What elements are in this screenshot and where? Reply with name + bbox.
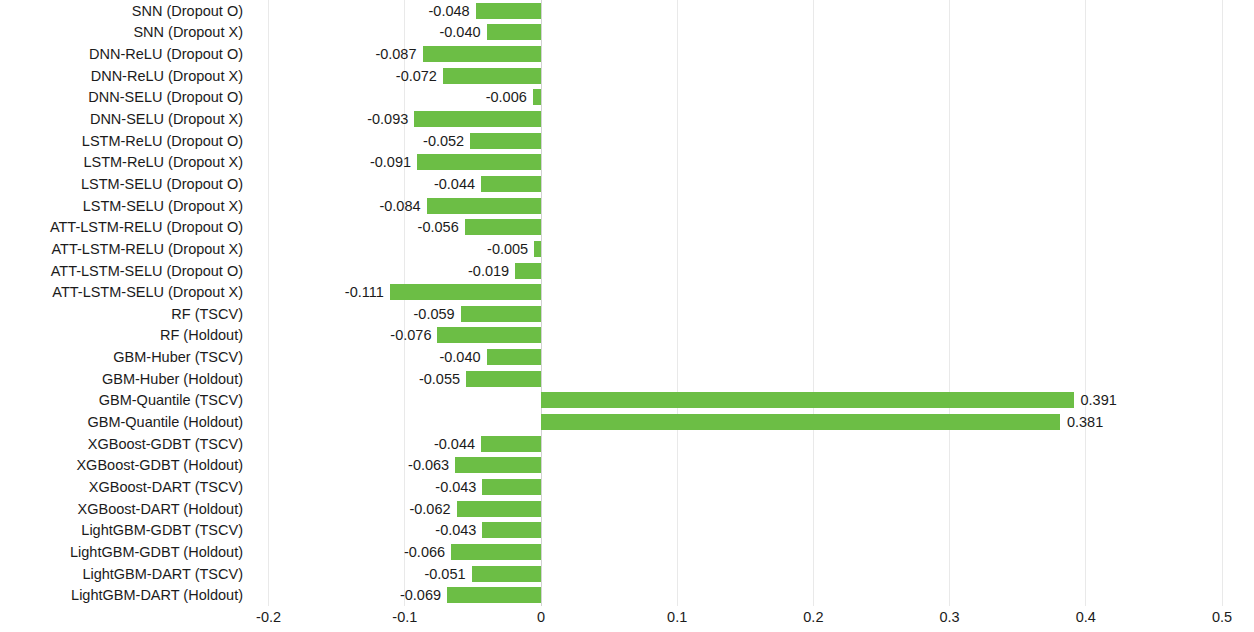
bar-row: LSTM-ReLU (Dropout O)-0.052 [0,130,1254,152]
bar [457,501,541,517]
bar [390,284,541,300]
category-label: RF (Holdout) [160,328,243,343]
category-label: LSTM-ReLU (Dropout O) [82,133,243,148]
bar-value-label: -0.063 [408,458,449,473]
category-label: GBM-Quantile (TSCV) [99,393,243,408]
bar-value-label: -0.069 [400,588,441,603]
bar-row: ATT-LSTM-RELU (Dropout O)-0.056 [0,216,1254,238]
bar-row: DNN-SELU (Dropout X)-0.093 [0,108,1254,130]
bar-row: DNN-ReLU (Dropout O)-0.087 [0,43,1254,65]
bar-rows: SNN (Dropout O)-0.048SNN (Dropout X)-0.0… [0,0,1254,606]
bar-row: LSTM-ReLU (Dropout X)-0.091 [0,152,1254,174]
bar [534,241,541,257]
category-label: XGBoost-DART (TSCV) [89,480,243,495]
category-label: LSTM-SELU (Dropout X) [83,198,243,213]
horizontal-bar-chart: SNN (Dropout O)-0.048SNN (Dropout X)-0.0… [0,0,1254,632]
category-label: XGBoost-GDBT (Holdout) [76,458,243,473]
category-label: LightGBM-GDBT (TSCV) [81,523,243,538]
bar-row: LSTM-SELU (Dropout O)-0.044 [0,173,1254,195]
category-label: DNN-SELU (Dropout X) [90,112,243,127]
category-label: RF (TSCV) [171,307,243,322]
bar-value-label: -0.076 [390,328,431,343]
bar-value-label: -0.093 [367,112,408,127]
bar-value-label: -0.059 [414,307,455,322]
bar-row: LightGBM-DART (TSCV)-0.051 [0,563,1254,585]
bar-row: XGBoost-GDBT (TSCV)-0.044 [0,433,1254,455]
bar-value-label: -0.055 [419,371,460,386]
bar-row: XGBoost-DART (Holdout)-0.062 [0,498,1254,520]
category-label: LSTM-ReLU (Dropout X) [83,155,243,170]
bar-value-label: -0.043 [435,480,476,495]
x-tick-label: 0.4 [1076,610,1096,625]
bar-value-label: -0.006 [486,90,527,105]
bar [533,89,541,105]
x-axis: -0.2-0.100.10.20.30.40.5 [0,606,1254,632]
bar [447,587,541,603]
category-label: GBM-Quantile (Holdout) [87,415,243,430]
bar-value-label: 0.381 [1067,415,1103,430]
bar [541,392,1074,408]
category-label: XGBoost-GDBT (TSCV) [88,436,243,451]
bar-value-label: -0.111 [345,285,384,300]
category-label: DNN-ReLU (Dropout X) [91,68,243,83]
bar [427,198,541,214]
bar-value-label: 0.391 [1081,393,1117,408]
category-label: DNN-ReLU (Dropout O) [89,47,243,62]
x-tick-label: 0.2 [803,610,823,625]
bar-row: LSTM-SELU (Dropout X)-0.084 [0,195,1254,217]
x-tick-label: -0.1 [392,610,417,625]
bar-row: RF (Holdout)-0.076 [0,325,1254,347]
bar-row: GBM-Huber (Holdout)-0.055 [0,368,1254,390]
bar-value-label: -0.044 [434,177,475,192]
category-label: DNN-SELU (Dropout O) [88,90,243,105]
bar-row: RF (TSCV)-0.059 [0,303,1254,325]
category-label: GBM-Huber (TSCV) [113,350,243,365]
bar-value-label: -0.019 [468,263,509,278]
bar [481,176,541,192]
bar-row: ATT-LSTM-SELU (Dropout X)-0.111 [0,281,1254,303]
bar [461,306,541,322]
bar-row: XGBoost-DART (TSCV)-0.043 [0,476,1254,498]
bar-row: GBM-Quantile (TSCV)0.391 [0,390,1254,412]
bar [472,566,541,582]
bar-value-label: -0.062 [409,501,450,516]
bar-value-label: -0.005 [487,242,528,257]
bar-value-label: -0.048 [428,4,469,19]
bar-value-label: -0.052 [423,133,464,148]
category-label: SNN (Dropout O) [132,4,243,19]
bar [466,371,541,387]
bar-row: LightGBM-GDBT (Holdout)-0.066 [0,541,1254,563]
bar-value-label: -0.091 [370,155,411,170]
bar-row: DNN-SELU (Dropout O)-0.006 [0,87,1254,109]
bar-row: SNN (Dropout X)-0.040 [0,22,1254,44]
category-label: LightGBM-DART (TSCV) [82,566,243,581]
x-tick-label: 0 [537,610,545,625]
bar-row: XGBoost-GDBT (Holdout)-0.063 [0,455,1254,477]
bar [481,436,541,452]
bar-value-label: -0.084 [379,198,420,213]
bar-value-label: -0.043 [435,523,476,538]
bar [487,24,541,40]
category-label: ATT-LSTM-SELU (Dropout X) [52,285,243,300]
bar-value-label: -0.056 [418,220,459,235]
bar [541,414,1060,430]
bar [470,133,541,149]
category-label: SNN (Dropout X) [133,25,243,40]
bar-value-label: -0.040 [439,350,480,365]
bar [443,68,541,84]
bar [414,111,541,127]
bar [451,544,541,560]
category-label: ATT-LSTM-SELU (Dropout O) [51,263,243,278]
bar-value-label: -0.044 [434,436,475,451]
bar [482,479,541,495]
category-label: LightGBM-GDBT (Holdout) [70,545,243,560]
bar-row: ATT-LSTM-SELU (Dropout O)-0.019 [0,260,1254,282]
plot-area: SNN (Dropout O)-0.048SNN (Dropout X)-0.0… [0,0,1254,606]
x-tick-label: 0.1 [667,610,687,625]
bar [465,219,541,235]
bar-row: ATT-LSTM-RELU (Dropout X)-0.005 [0,238,1254,260]
x-tick-label: -0.2 [256,610,281,625]
bar [482,522,541,538]
bar [437,327,541,343]
bar-row: SNN (Dropout O)-0.048 [0,0,1254,22]
